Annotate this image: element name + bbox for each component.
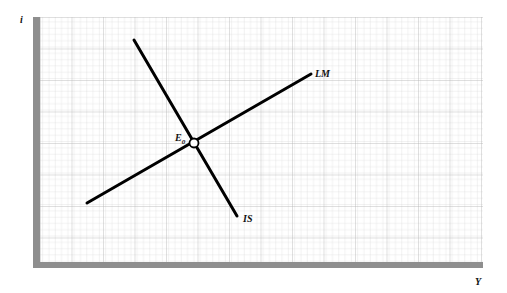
is-label: IS (243, 213, 252, 224)
y-axis-bar (33, 17, 40, 268)
equilibrium-letter: E (175, 132, 182, 143)
x-axis-label: Y (475, 276, 481, 287)
equilibrium-label: E0 (175, 132, 185, 146)
x-axis-bar (33, 262, 483, 268)
equilibrium-point (190, 139, 199, 148)
equilibrium-subscript: 0 (182, 138, 186, 146)
lm-label: LM (315, 68, 330, 79)
y-axis-label: i (20, 14, 23, 25)
is-lm-diagram (0, 0, 507, 293)
grid-paper (40, 17, 483, 262)
